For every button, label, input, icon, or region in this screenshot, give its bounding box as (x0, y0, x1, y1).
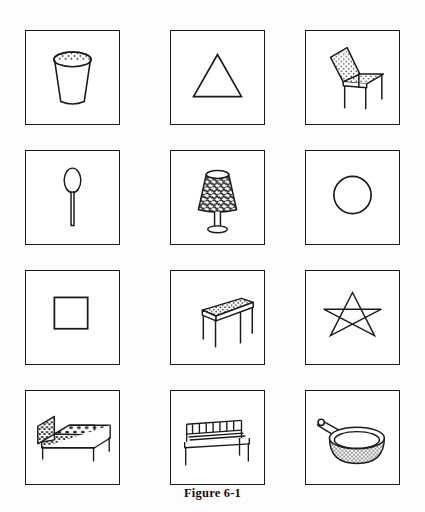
frying-pan-drawing-icon (318, 419, 385, 463)
cup-drawing-icon (54, 52, 91, 104)
table-drawing-icon (202, 298, 253, 347)
bench-drawing-icon (185, 420, 250, 465)
square-shape-icon (54, 297, 87, 328)
stimulus-cell-lamp (170, 150, 265, 245)
triangle-shape-icon (194, 54, 242, 96)
star-shape-icon (324, 293, 382, 336)
stimulus-cell-star (305, 270, 400, 365)
figure-caption: Figure 6-1 (0, 486, 425, 501)
stimulus-cell-table (170, 270, 265, 365)
chair-drawing-icon (330, 48, 383, 110)
stimulus-cell-pan (305, 390, 400, 485)
spoon-drawing-icon (64, 168, 81, 225)
stimulus-cell-circle (305, 150, 400, 245)
stimulus-cell-bed (25, 390, 120, 485)
lamp-drawing-icon (198, 171, 236, 233)
figure-page: Figure 6-1 (0, 0, 425, 512)
stimulus-cell-square (25, 270, 120, 365)
stimulus-cell-triangle (170, 30, 265, 125)
stimulus-cell-spoon (25, 150, 120, 245)
stimulus-cell-chair (305, 30, 400, 125)
stimulus-cell-cup (25, 30, 120, 125)
stimulus-cell-bench (170, 390, 265, 485)
stimulus-grid (0, 0, 425, 482)
circle-shape-icon (334, 176, 371, 213)
bed-drawing-icon (38, 416, 110, 461)
